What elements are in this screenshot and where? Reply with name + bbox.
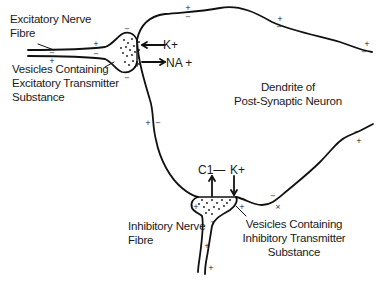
excitatory-fibre-label: Excitatory Nerve Fibre (10, 12, 91, 40)
inhibitory-vesicles-label: Vesicles Containing Inhibitory Transmitt… (234, 217, 354, 259)
svg-text:+: + (239, 203, 245, 211)
svg-text:−: − (155, 119, 161, 127)
dendrite-label: Dendrite of Post-Synaptic Neuron (218, 80, 358, 108)
svg-text:+: + (145, 119, 151, 127)
svg-text:+: + (185, 4, 191, 12)
synapse-diagram: +− +− −− +− +− +− +− −× −+ ++ −+ + Excit… (0, 0, 383, 282)
svg-text:−: − (124, 25, 130, 33)
svg-text:−: − (49, 49, 55, 57)
svg-text:−: − (361, 48, 367, 56)
inhibitory-terminal-right (205, 197, 237, 274)
k-plus-excitatory-label: K+ (163, 38, 178, 52)
dendrite-membrane-bottom (236, 124, 373, 205)
inhibitory-fibre-label: Inhibitory Nerve Fibre (128, 219, 205, 247)
svg-text:−: − (185, 13, 191, 21)
svg-text:−: − (210, 218, 216, 226)
svg-text:+: + (356, 137, 362, 145)
cl-minus-label: C1— (198, 163, 225, 177)
svg-text:+: + (193, 203, 199, 211)
na-plus-label: NA + (166, 56, 192, 70)
k-plus-inhibitory-label: K+ (230, 163, 245, 177)
svg-text:−: − (93, 50, 99, 58)
svg-text:−: − (276, 23, 282, 31)
svg-text:−: − (354, 128, 360, 136)
svg-text:−: − (124, 74, 130, 82)
svg-text:+: + (277, 15, 283, 23)
svg-text:+: + (93, 40, 99, 48)
svg-text:×: × (275, 203, 281, 211)
svg-text:+: + (208, 264, 214, 272)
excitatory-vesicles-label: Vesicles Containing Excitatory Transmitt… (12, 62, 119, 104)
svg-text:+: + (364, 40, 370, 48)
svg-text:−: − (270, 192, 276, 200)
